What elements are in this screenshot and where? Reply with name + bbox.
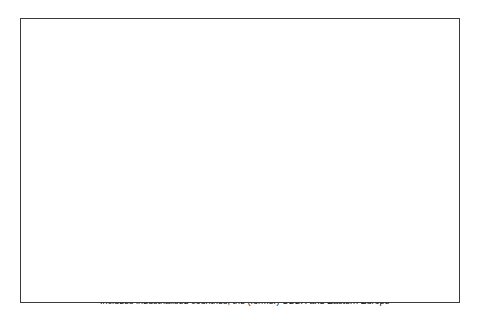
figure-border (20, 18, 460, 303)
figure-root: 50 40 30 20 10 0 1750 1800 1850 1900 195… (0, 0, 486, 321)
